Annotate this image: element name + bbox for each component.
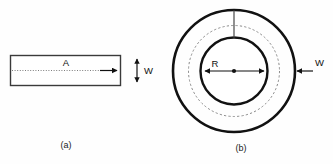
annulus-width-label: W	[315, 57, 324, 68]
panel-a-group: A W (a)	[11, 56, 154, 151]
panel-b-group: R W (b)	[173, 10, 324, 153]
technical-diagram-svg: A W (a) R W (b)	[0, 0, 333, 164]
strip-width-label: W	[144, 65, 153, 76]
panel-b-caption: (b)	[236, 143, 247, 153]
annulus-radius-label: R	[212, 58, 219, 69]
panel-a-caption: (a)	[61, 140, 72, 150]
figure-container: A W (a) R W (b)	[0, 0, 333, 164]
annulus-center-point	[232, 69, 236, 73]
strip-length-label: A	[63, 57, 70, 68]
